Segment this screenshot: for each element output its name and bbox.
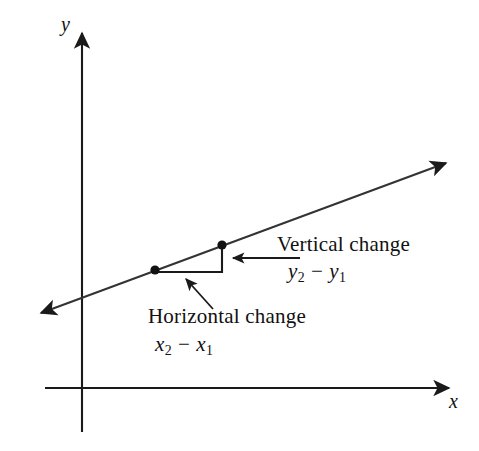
horizontal-formula-sub-1: 2 (164, 343, 171, 358)
vertical-formula-var-1: y (288, 259, 297, 283)
vertical-formula-operator: − (305, 259, 329, 283)
point-2-marker (217, 240, 226, 249)
horizontal-formula-var-2: x (196, 332, 205, 356)
point-1-marker (150, 265, 159, 274)
diagram-canvas (0, 0, 479, 451)
vertical-formula-sub-1: 2 (297, 270, 304, 285)
horizontal-formula-var-1: x (155, 332, 164, 356)
vertical-formula-sub-2: 1 (339, 270, 346, 285)
vertical-change-formula: y2−y1 (288, 261, 346, 285)
horizontal-formula-sub-2: 1 (206, 343, 213, 358)
horizontal-change-label: Horizontal change (148, 306, 306, 327)
y-axis-label: y (61, 14, 70, 34)
horizontal-change-formula: x2−x1 (155, 334, 213, 358)
horizontal-formula-operator: − (172, 332, 196, 356)
vertical-change-label: Vertical change (277, 234, 410, 255)
vertical-formula-var-2: y (329, 259, 338, 283)
slope-diagram: y x Vertical change y2−y1 Horizontal cha… (0, 0, 479, 451)
x-axis-label: x (449, 391, 458, 411)
